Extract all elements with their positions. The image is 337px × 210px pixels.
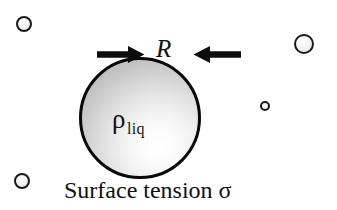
molecule-top-right (294, 34, 314, 54)
molecule-middle-right (260, 101, 270, 111)
radius-arrow-right-icon (97, 44, 145, 65)
rho-symbol: ρ (112, 104, 126, 134)
rho-subscript: liq (126, 120, 145, 137)
radius-label: R (156, 36, 171, 61)
droplet-density-label: ρliq (112, 106, 145, 137)
molecule-top-left (16, 16, 32, 32)
surface-tension-diagram: ρliq R Surface tension σ (0, 0, 337, 210)
radius-arrow-left-icon (191, 44, 241, 65)
figure-caption: Surface tension σ (64, 178, 232, 202)
molecule-bottom-left (14, 173, 30, 189)
